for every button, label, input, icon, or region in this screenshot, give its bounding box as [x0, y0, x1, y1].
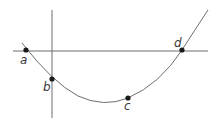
- point-label-b: b: [43, 80, 51, 94]
- point-label-c: c: [124, 99, 131, 113]
- point-a: [23, 47, 28, 52]
- point-label-a: a: [20, 53, 27, 67]
- parabola-diagram: abcd: [0, 0, 220, 126]
- points-group: abcd: [20, 36, 185, 113]
- point-label-d: d: [174, 36, 182, 50]
